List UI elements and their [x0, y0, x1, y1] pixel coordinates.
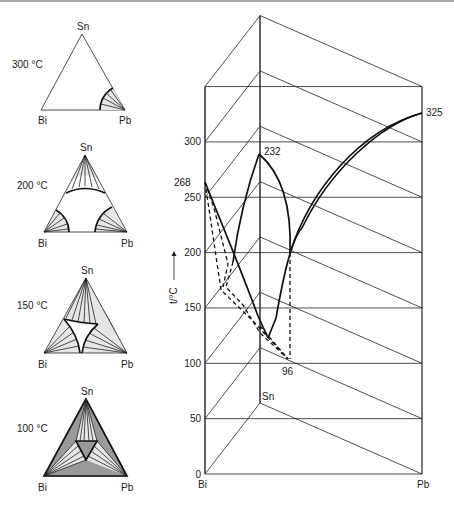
- prism-frame: [205, 16, 422, 474]
- liquidus-pb-bi-side: [302, 113, 422, 228]
- vertex-label-sn: Sn: [77, 21, 89, 32]
- isotherm-sn-pb-350: [260, 16, 422, 87]
- vertex-label-sn: Sn: [81, 265, 93, 276]
- isotherm-bi-sn-200: [205, 182, 260, 253]
- isotherm-bi-sn-250: [205, 126, 260, 197]
- vertex-label-bi: Bi: [38, 359, 47, 370]
- tick-label-250: 250: [184, 192, 201, 203]
- isotherm-sn-pb-0: [260, 403, 422, 474]
- space-model-prism: 050100150200250300 268 232 325 96 Bi Pb …: [168, 16, 443, 490]
- isotherm-sn-pb-200: [260, 182, 422, 253]
- section-temperature-label: 300 °C: [12, 59, 43, 70]
- temperature-axis-label: t/°C: [168, 287, 179, 304]
- eutectic-trough-bi-sn: [205, 182, 288, 359]
- liquidus-pb-sn-side: [290, 113, 422, 253]
- phase-diagram-figure: 300 °C Sn Bi Pb 200 °C Sn Bi Pb: [0, 0, 454, 505]
- ternary-eutectic-label: 96: [282, 366, 294, 377]
- section-200: 200 °C Sn Bi Pb: [17, 142, 134, 249]
- tick-label-100: 100: [184, 358, 201, 369]
- bi-solid-region: [44, 210, 69, 232]
- melting-point-sn-label: 232: [264, 146, 281, 157]
- section-150: 150 °C Sn Bi Pb: [17, 265, 134, 370]
- section-300: 300 °C Sn Bi Pb: [12, 21, 132, 126]
- corner-label-bi: Bi: [198, 479, 207, 490]
- isotherm-bi-sn-100: [205, 292, 260, 363]
- arrow-up-icon: [172, 251, 177, 256]
- liquidus-bi-sn-bi-side: [205, 182, 258, 316]
- section-temperature-label: 150 °C: [17, 300, 48, 311]
- isotherm-bi-sn-0: [205, 403, 260, 474]
- vertex-label-pb: Pb: [119, 115, 132, 126]
- isotherm-sn-pb-300: [260, 71, 422, 142]
- eutectic-trough-bi: [205, 182, 228, 287]
- vertex-label-bi: Bi: [38, 115, 47, 126]
- vertex-label-sn: Sn: [80, 142, 92, 153]
- section-temperature-label: 100 °C: [17, 423, 48, 434]
- vertex-label-pb: Pb: [121, 238, 134, 249]
- tick-label-150: 150: [184, 302, 201, 313]
- liquidus-sn-bi-side: [233, 154, 259, 262]
- liquidus-arc-sn: [66, 189, 105, 194]
- isotherm-sn-pb-250: [260, 126, 422, 197]
- tick-label-300: 300: [184, 136, 201, 147]
- melting-point-pb-label: 325: [426, 107, 443, 118]
- temperature-axis-label-group: t/°C: [168, 251, 179, 304]
- vertex-label-pb: Pb: [121, 482, 134, 493]
- vertex-label-bi: Bi: [38, 482, 47, 493]
- section-100: 100 °C Sn Bi Pb: [17, 386, 134, 493]
- vertex-label-bi: Bi: [38, 238, 47, 249]
- liquidus-from-eutectic: [268, 228, 302, 338]
- melting-point-bi-label: 268: [174, 177, 191, 188]
- tick-label-200: 200: [184, 247, 201, 258]
- section-temperature-label: 200 °C: [17, 180, 48, 191]
- vertex-label-pb: Pb: [121, 359, 134, 370]
- corner-label-pb: Pb: [417, 479, 430, 490]
- isotherm-sn-pb-50: [260, 348, 422, 419]
- isotherm-bi-sn-350: [205, 16, 260, 87]
- vertex-label-sn: Sn: [81, 386, 93, 397]
- isotherm-sn-pb-100: [260, 292, 422, 363]
- eutectic-trough-bi-lower: [226, 262, 288, 359]
- tick-label-50: 50: [190, 413, 202, 424]
- tick-label-0: 0: [195, 469, 201, 480]
- isotherm-bi-sn-300: [205, 71, 260, 142]
- isotherm-bi-sn-50: [205, 348, 260, 419]
- corner-label-sn: Sn: [262, 391, 274, 402]
